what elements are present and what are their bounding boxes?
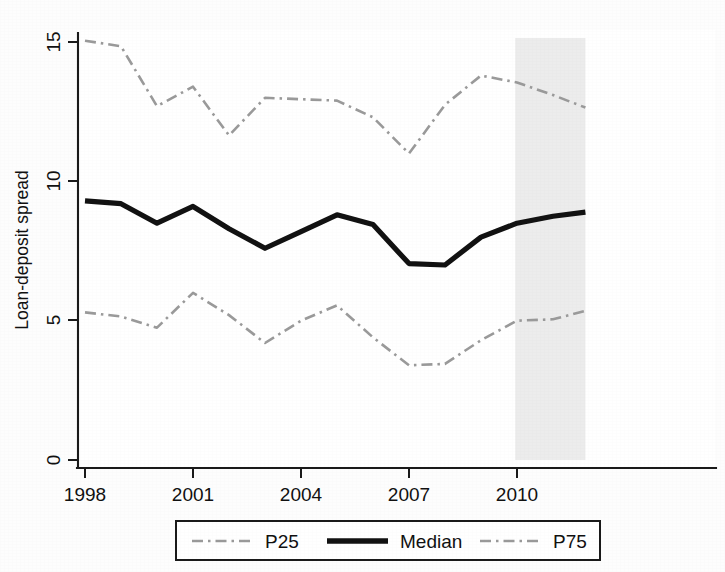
x-tick-label-2001: 2001 [172,484,214,505]
y-tick-label-0: 0 [43,455,64,466]
x-tick-label-2007: 2007 [388,484,430,505]
x-tick-label-2004: 2004 [280,484,323,505]
loan-deposit-spread-line-chart: 15 10 5 0 Loan-deposit spread 1998 2001 … [0,0,725,572]
y-axis-title: Loan-deposit spread [12,170,32,330]
y-tick-label-5: 5 [43,315,64,326]
y-tick-label-10: 10 [43,170,64,191]
legend-label-p25: P25 [265,531,299,552]
chart-legend: P25 Median P75 [176,521,600,560]
x-tick-label-1998: 1998 [64,484,106,505]
shaded-period-band [515,38,585,460]
figure-canvas: 15 10 5 0 Loan-deposit spread 1998 2001 … [0,0,725,572]
legend-label-median: Median [400,531,462,552]
y-tick-label-15: 15 [43,31,64,52]
legend-label-p75: P75 [553,531,587,552]
x-tick-label-2010: 2010 [496,484,538,505]
